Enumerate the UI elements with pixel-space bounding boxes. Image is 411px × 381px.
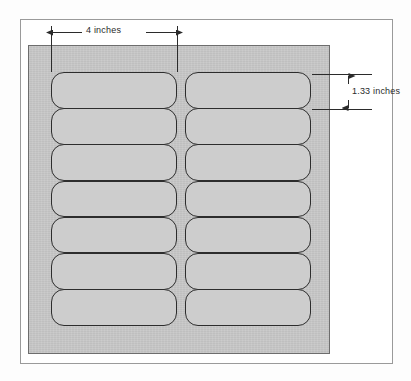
label-cell [185, 289, 311, 326]
label-cell [51, 217, 177, 254]
dimension-label-height: 1.33 inches [352, 86, 400, 96]
label-cell [51, 108, 177, 145]
label-cell [51, 181, 177, 218]
label-cell [51, 289, 177, 326]
label-cell [185, 108, 311, 145]
dimension-label-width: 4 inches [86, 25, 121, 35]
label-sheet-diagram: 4 inches 1.33 inches [0, 0, 411, 381]
label-cell [185, 72, 311, 109]
label-cell [185, 217, 311, 254]
label-cell [185, 253, 311, 290]
label-cell [51, 72, 177, 109]
label-cell [185, 144, 311, 181]
label-cell [51, 253, 177, 290]
label-cell [185, 181, 311, 218]
label-cell [51, 144, 177, 181]
